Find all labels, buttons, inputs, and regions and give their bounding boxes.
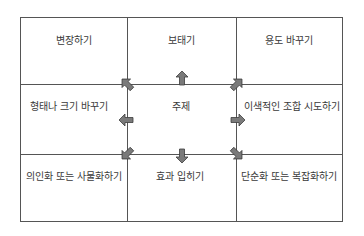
- idea-grid: [20, 17, 343, 222]
- cell-bottom-left: 의인화 또는 사물화하기: [26, 168, 122, 183]
- cell-top-center: 보태기: [168, 32, 195, 47]
- cell-top-right: 용도 바꾸기: [265, 32, 313, 47]
- cell-top-left: 변장하기: [56, 32, 92, 47]
- arrow-left-icon: [118, 112, 134, 128]
- arrow-down-icon: [174, 148, 190, 164]
- arrow-up-icon: [174, 70, 190, 86]
- cell-middle-right: 이색적인 조합 시도하기: [244, 98, 340, 113]
- cell-center-topic: 주제: [172, 98, 190, 113]
- cell-middle-left: 형태나 크기 바꾸기: [30, 98, 108, 113]
- arrow-right-icon: [230, 112, 246, 128]
- cell-bottom-center: 효과 입히기: [156, 168, 204, 183]
- cell-bottom-right: 단순화 또는 복잡화하기: [241, 168, 337, 183]
